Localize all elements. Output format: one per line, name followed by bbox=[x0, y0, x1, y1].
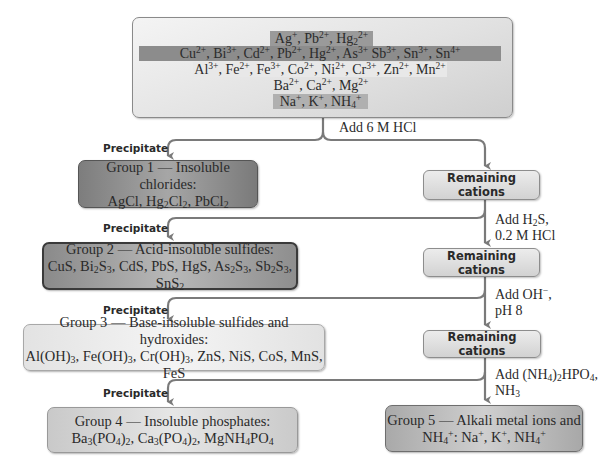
reagent-h2s: Add H2S,0.2 M HCl bbox=[495, 212, 555, 244]
ion-row-group2: Cu2+, Bi3+, Cd2+, Pb2+, Hg2+, As3+ Sb3+,… bbox=[139, 46, 501, 61]
reagent-oh: Add OH−,pH 8 bbox=[495, 287, 552, 319]
precipitate-label-4: Precipitate bbox=[103, 387, 168, 399]
ion-row-group1: Ag+, Pb2+, Hg22+ bbox=[270, 31, 373, 46]
group-4-box: Group 4 — Insoluble phosphates: Ba3(PO4)… bbox=[47, 407, 298, 453]
precipitate-label-1: Precipitate bbox=[103, 142, 168, 154]
group-3-formula: Al(OH)3, Fe(OH)3, Cr(OH)3, ZnS, NiS, CoS… bbox=[24, 348, 324, 382]
group-5-box: Group 5 — Alkali metal ions and NH4+: Na… bbox=[385, 405, 583, 452]
reagent-hcl: Add 6 M HCl bbox=[339, 120, 416, 136]
group-2-title: Group 2 — Acid-insoluble sulfides: bbox=[44, 241, 296, 258]
group-1-formula: AgCl, Hg2Cl2, PbCl2 bbox=[79, 193, 257, 210]
cation-mixture-box: Ag+, Pb2+, Hg22+ Cu2+, Bi3+, Cd2+, Pb2+,… bbox=[132, 17, 513, 118]
reagent-phosphate: Add (NH4)2HPO4,NH3 bbox=[495, 367, 598, 399]
remaining-cations-box-1: Remaining cations bbox=[423, 170, 540, 200]
ion-row-group3: Al3+, Fe2+, Fe3+, Co2+, Ni2+, Cr3+, Zn2+… bbox=[193, 62, 447, 77]
stem-top bbox=[168, 118, 323, 156]
precipitate-label-2: Precipitate bbox=[103, 222, 168, 234]
group-3-title: Group 3 — Base-insoluble sulfides and hy… bbox=[24, 314, 324, 348]
ion-row-group4: Ba2+, Ca2+, Mg2+ bbox=[271, 78, 371, 93]
remaining-cations-box-2: Remaining cations bbox=[423, 248, 540, 277]
group-5-formula: NH4+: Na+, K+, NH4+ bbox=[386, 429, 582, 446]
ion-row-group5: Na+, K+, NH4+ bbox=[273, 94, 368, 109]
group-1-box: Group 1 — Insoluble chlorides: AgCl, Hg2… bbox=[78, 160, 258, 208]
group-2-formula: CuS, Bi2S3, CdS, PbS, HgS, As2S3, Sb2S3,… bbox=[44, 258, 296, 292]
group-5-title: Group 5 — Alkali metal ions and bbox=[386, 412, 582, 429]
group-3-box: Group 3 — Base-insoluble sulfides and hy… bbox=[23, 324, 325, 371]
group-2-box: Group 2 — Acid-insoluble sulfides: CuS, … bbox=[42, 242, 298, 290]
split-right bbox=[323, 132, 485, 166]
remaining-cations-box-3: Remaining cations bbox=[423, 330, 541, 358]
group-4-formula: Ba3(PO4)2, Ca3(PO4)2, MgNH4PO4 bbox=[48, 430, 297, 447]
group-1-title: Group 1 — Insoluble chlorides: bbox=[79, 159, 257, 193]
group-4-title: Group 4 — Insoluble phosphates: bbox=[48, 413, 297, 430]
